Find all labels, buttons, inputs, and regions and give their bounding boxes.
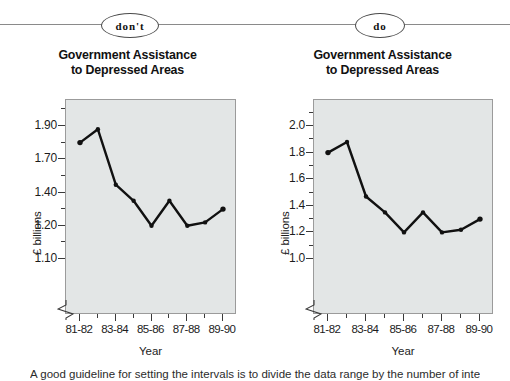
axis-break-do — [305, 300, 333, 320]
data-point — [167, 199, 171, 203]
data-point — [402, 230, 406, 234]
data-point — [364, 194, 368, 198]
data-point — [77, 140, 82, 145]
x-tick-mark — [346, 314, 347, 318]
data-point — [203, 220, 207, 224]
x-tick-mark — [222, 314, 223, 321]
chart-title-line1: Government Assistance — [0, 48, 255, 63]
x-tick-mark — [384, 314, 385, 318]
x-tick-mark — [151, 314, 152, 321]
x-tick-label: 89-90 — [457, 323, 501, 335]
y-tick-mark — [61, 108, 65, 109]
x-axis-title-do: Year — [313, 345, 493, 357]
data-point — [96, 127, 100, 131]
y-tick-label: 1.90 — [17, 119, 57, 131]
y-tick-mark — [309, 192, 313, 193]
series-line — [80, 129, 223, 226]
y-tick-mark — [61, 142, 65, 143]
x-tick-label: 89-90 — [200, 323, 244, 335]
y-tick-mark — [58, 125, 65, 126]
x-tick-mark — [479, 314, 480, 321]
data-point — [114, 183, 118, 187]
panel-dont: Government Assistance to Depressed Areas… — [0, 0, 255, 378]
y-tick-mark — [306, 152, 313, 153]
series-line — [328, 142, 480, 232]
figure-caption: A good guideline for setting the interva… — [30, 368, 480, 381]
y-tick-label: 1.8 — [265, 146, 305, 158]
data-point — [459, 228, 463, 232]
x-tick-mark — [168, 314, 169, 318]
y-tick-mark — [306, 231, 313, 232]
y-tick-mark — [309, 245, 313, 246]
data-point — [131, 199, 135, 203]
x-tick-mark — [97, 314, 98, 318]
y-tick-mark — [309, 218, 313, 219]
data-point — [477, 216, 482, 221]
data-point — [220, 206, 225, 211]
data-point — [383, 210, 387, 214]
y-tick-mark — [306, 178, 313, 179]
y-axis-title-do: £ billions — [279, 211, 291, 255]
plot-area-do — [313, 99, 493, 314]
chart-title-do: Government Assistance to Depressed Areas — [255, 48, 510, 78]
y-tick-label: 1.4 — [265, 199, 305, 211]
y-tick-mark — [309, 138, 313, 139]
plot-area-dont — [65, 99, 236, 314]
y-tick-mark — [61, 241, 65, 242]
y-tick-mark — [58, 192, 65, 193]
y-tick-label: 2.0 — [265, 119, 305, 131]
chart-title-line1: Government Assistance — [255, 48, 510, 63]
data-point — [440, 230, 444, 234]
data-point — [325, 150, 330, 155]
y-tick-label: 1.40 — [17, 186, 57, 198]
axis-break-dont — [57, 300, 85, 320]
x-tick-mark — [403, 314, 404, 321]
y-tick-label: 1.70 — [17, 152, 57, 164]
x-tick-mark — [441, 314, 442, 321]
panel-do: Government Assistance to Depressed Areas… — [255, 0, 510, 378]
line-series-do — [314, 100, 494, 315]
y-tick-mark — [309, 165, 313, 166]
data-point — [345, 140, 349, 144]
y-tick-mark — [306, 258, 313, 259]
x-tick-mark — [115, 314, 116, 321]
y-tick-mark — [58, 225, 65, 226]
y-tick-mark — [61, 175, 65, 176]
y-tick-label: 1.6 — [265, 172, 305, 184]
line-series-dont — [66, 100, 237, 315]
chart-title-line2: to Depressed Areas — [0, 63, 255, 78]
x-tick-mark — [133, 314, 134, 318]
y-tick-mark — [58, 158, 65, 159]
data-point — [421, 210, 425, 214]
data-point — [185, 224, 189, 228]
x-tick-mark — [186, 314, 187, 321]
x-tick-mark — [422, 314, 423, 318]
y-tick-mark — [61, 208, 65, 209]
y-tick-mark — [309, 112, 313, 113]
y-tick-mark — [306, 205, 313, 206]
chart-title-line2: to Depressed Areas — [255, 63, 510, 78]
x-axis-title-dont: Year — [65, 345, 236, 357]
x-tick-mark — [365, 314, 366, 321]
chart-title-dont: Government Assistance to Depressed Areas — [0, 48, 255, 78]
y-axis-title-dont: £ billions — [31, 211, 43, 255]
x-tick-mark — [460, 314, 461, 318]
x-tick-mark — [204, 314, 205, 318]
y-tick-mark — [58, 258, 65, 259]
y-tick-mark — [306, 125, 313, 126]
data-point — [149, 224, 153, 228]
